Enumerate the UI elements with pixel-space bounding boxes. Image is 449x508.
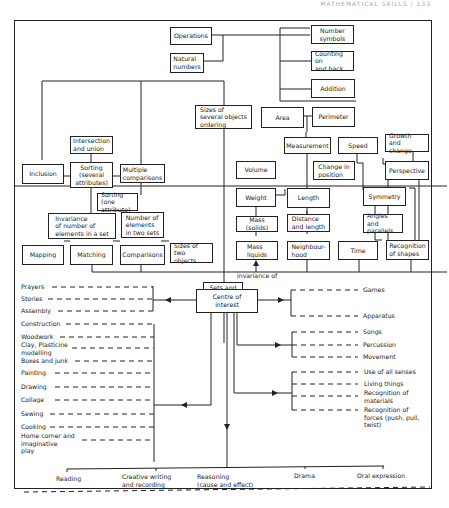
box-operations: Operations <box>170 27 212 45</box>
box-angles-parallels: Angles and parallels <box>363 214 403 233</box>
activity-use-all-senses: Use of all senses <box>364 368 416 376</box>
activity-drama: Drama <box>294 472 315 480</box>
box-length: Length <box>287 188 330 208</box>
activity-cooking: Cooking <box>21 423 46 431</box>
box-speed: Speed <box>338 137 378 154</box>
activity-oral-expression: Oral expression <box>357 472 405 480</box>
box-addition: Addition <box>311 79 355 98</box>
activity-movement: Movement <box>363 353 396 361</box>
box-weight: Weight <box>236 188 276 207</box>
activity-prayers: Prayers <box>21 283 44 291</box>
activity-reading: Reading <box>56 475 81 483</box>
box-volume: Volume <box>236 161 276 179</box>
activity-songs: Songs <box>363 328 382 336</box>
box-invariance-number-in-set: Invariance of number of elements in a se… <box>48 213 116 239</box>
box-multiple-comparisons: Multiple comparisons <box>120 164 165 183</box>
box-mapping: Mapping <box>22 245 64 265</box>
box-perimeter: Perimeter <box>312 107 355 127</box>
box-sorting-several: Sorting (several attributes) <box>70 162 113 188</box>
box-recognition-shapes: Recognition of shapes <box>386 240 429 260</box>
box-perspective: Perspective <box>385 161 429 180</box>
box-growth-change: Growth and change <box>385 134 429 152</box>
box-matching: Matching <box>70 245 113 265</box>
box-measurement: Measurement <box>284 137 331 154</box>
box-inclusion: Inclusion <box>22 164 64 184</box>
activity-sewing: Sewing <box>21 410 43 418</box>
box-sizes-two-objects: Sizes of two objects <box>170 243 213 263</box>
box-mass-liquids: Mass liquids <box>236 241 278 260</box>
activity-woodwork: Woodwork <box>21 333 53 341</box>
box-centre-of-interest: Centre of interest <box>196 289 258 313</box>
activity-recognition-materials: Recognition of materials <box>364 389 408 404</box>
box-sorting-one-attribute: Sorting (one attribute) <box>97 193 138 211</box>
box-sizes-several-objects: Sizes of several objects ordering <box>195 105 252 129</box>
box-number-elements-two-sets: Number of elements in two sets <box>121 212 164 238</box>
activity-home-corner: Home corner and imaginative play <box>21 432 75 455</box>
activity-drawing: Drawing <box>21 383 47 391</box>
box-neighbourhood: Neighbour- hood <box>287 241 330 260</box>
activity-living-things: Living things <box>364 380 404 388</box>
box-natural-numbers: Natural numbers <box>170 53 204 73</box>
activity-boxes-junk: Boxes and junk <box>21 357 68 365</box>
box-area: Area <box>261 107 304 128</box>
activity-creative-writing: Creative writing and recording <box>122 473 171 488</box>
activity-stories: Stories <box>21 295 42 303</box>
activity-construction: Construction <box>21 320 60 328</box>
box-change-in-position: Change in position <box>313 161 355 180</box>
box-symmetry: Symmetry <box>363 187 406 206</box>
activity-percussion: Percussion <box>363 341 396 349</box>
box-comparisons: Comparisons <box>120 245 165 265</box>
activity-painting: Painting <box>21 369 46 377</box>
activity-apparatus: Apparatus <box>363 312 395 320</box>
activity-collage: Collage <box>21 396 44 404</box>
activity-recognition-forces: Recognition of forces (push, pull, twist… <box>364 406 419 429</box>
activity-clay-plasticine: Clay, Plasticine modelling <box>21 341 68 356</box>
box-intersection-union: Intersection and union <box>70 136 113 154</box>
activity-assembly: Assembly <box>21 307 51 315</box>
activity-reasoning: Reasoning (cause and effect) <box>197 473 253 488</box>
label-invariance-of: invariance of <box>237 272 277 280</box>
activity-games: Games <box>363 286 385 294</box>
box-number-symbols: Number symbols <box>311 25 354 44</box>
box-distance-length: Distance and length <box>287 214 330 232</box>
box-mass-solids: Mass (solids) <box>236 216 278 232</box>
box-time: Time <box>338 241 378 260</box>
box-counting-on-back: Counting on and back <box>311 51 354 71</box>
